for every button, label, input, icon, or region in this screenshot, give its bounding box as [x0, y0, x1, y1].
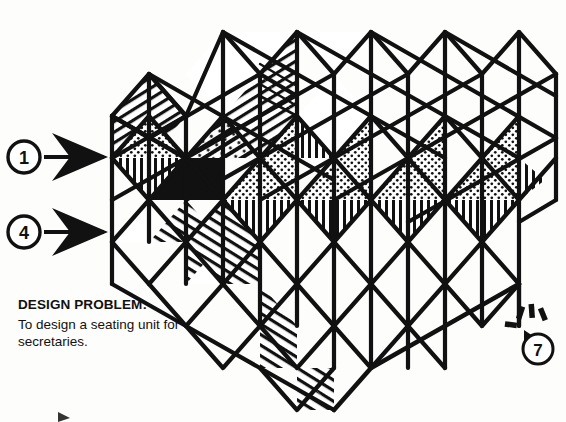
design-problem-caption: DESIGN PROBLEM: To design a seating unit… [18, 297, 253, 350]
callout-7-label: 7 [533, 341, 542, 360]
caption-line-2: secretaries. [18, 333, 253, 350]
isometric-seating-diagram: 1 4 7 [0, 0, 566, 422]
caption-heading: DESIGN PROBLEM: [18, 297, 253, 314]
figure-canvas: 1 4 7 [0, 0, 566, 422]
callout-1-label: 1 [19, 148, 29, 168]
callout-4-label: 4 [19, 223, 29, 243]
caption-line-1: To design a seating unit for [18, 316, 253, 333]
